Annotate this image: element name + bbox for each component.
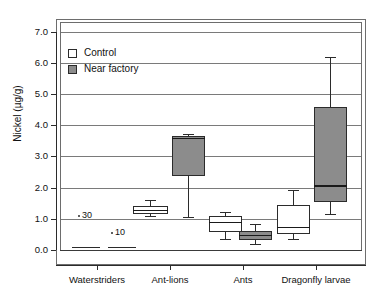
y-tick-1: [51, 219, 56, 220]
legend-item-near-factory: Near factory: [68, 64, 138, 74]
y-tick-label-7: 7.0: [20, 27, 48, 37]
y-tick-6: [51, 63, 56, 64]
gridline-0-baseline: [60, 250, 362, 251]
median-line: [277, 227, 310, 228]
whisker-cap-low: [145, 216, 156, 217]
y-tick-4: [51, 125, 56, 126]
x-axis-label-dragonfly-larvae: Dragonfly larvae: [281, 274, 350, 285]
whisker-cap-high: [288, 190, 299, 191]
median-line: [239, 235, 272, 236]
whisker-cap-low: [183, 217, 194, 218]
x-axis-label-ants: Ants: [233, 274, 252, 285]
y-tick-label-0: 0.0: [20, 245, 48, 255]
legend: Control Near factory: [68, 48, 138, 80]
annotation-label-10: 10: [115, 228, 125, 237]
y-tick-0: [51, 250, 56, 251]
y-tick-labels: 7.0 6.0 5.0 4.0 3.0 2.0 1.0 0.0: [18, 0, 48, 298]
y-tick-label-1: 1.0: [20, 214, 48, 224]
y-axis-title: Nickel (µg/g): [12, 59, 23, 169]
x-axis-label-waterstriders: Waterstriders: [69, 274, 125, 285]
whisker-cap-low: [250, 244, 261, 245]
whisker-cap-high: [145, 200, 156, 201]
y-tick-label-4: 4.0: [20, 120, 48, 130]
box-rect: [277, 205, 310, 234]
whisker-cap-high: [250, 224, 261, 225]
median-line: [133, 210, 168, 211]
median-line: [209, 222, 242, 223]
legend-label-near-factory: Near factory: [84, 64, 138, 74]
y-tick-label-2: 2.0: [20, 183, 48, 193]
whisker-cap-low: [220, 239, 231, 240]
nickel-boxplot-figure: 7.0 6.0 5.0 4.0 3.0 2.0 1.0 0.0 Nickel (…: [0, 0, 375, 298]
y-tick-3: [51, 156, 56, 157]
whisker-cap-low: [288, 239, 299, 240]
box-rect: [209, 216, 242, 232]
x-tick-waterstriders: [97, 265, 98, 270]
legend-swatch-control-icon: [68, 49, 77, 58]
whisker-cap-low: [325, 214, 336, 215]
box-waterstriders-near-factory: [108, 247, 136, 248]
annotation-label-30: 30: [82, 211, 92, 220]
median-line: [314, 185, 347, 187]
y-tick-label-3: 3.0: [20, 151, 48, 161]
box-rect: [172, 136, 205, 176]
y-axis-line: [56, 32, 57, 250]
legend-label-control: Control: [84, 48, 116, 58]
x-tick-dragonfly: [316, 265, 317, 270]
whisker-cap-high: [325, 57, 336, 58]
panel-border-top: [60, 22, 362, 23]
gridline-5: [60, 94, 362, 95]
y-tick-2: [51, 188, 56, 189]
gridline-7: [60, 32, 362, 33]
median-line: [172, 138, 205, 139]
annotation-dot-10-icon: [111, 232, 113, 234]
x-tick-antlions: [170, 265, 171, 270]
box-waterstriders-control: [72, 247, 100, 248]
y-tick-label-6: 6.0: [20, 58, 48, 68]
legend-swatch-near-factory-icon: [68, 65, 77, 74]
x-tick-ants: [243, 265, 244, 270]
y-tick-5: [51, 94, 56, 95]
whisker-cap-high: [220, 212, 231, 213]
annotation-dot-30-icon: [78, 215, 80, 217]
y-tick-7: [51, 32, 56, 33]
y-tick-label-5: 5.0: [20, 89, 48, 99]
x-axis-label-antlions: Ant-lions: [152, 274, 189, 285]
x-axis-line: [56, 265, 366, 266]
panel-border-left: [60, 22, 61, 250]
legend-item-control: Control: [68, 48, 138, 58]
whisker-cap-high: [183, 134, 194, 135]
panel-border-right: [361, 22, 362, 250]
box-rect: [314, 107, 347, 202]
